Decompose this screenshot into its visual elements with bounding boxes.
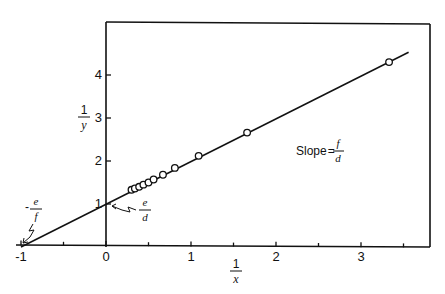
y-tick-labels: 1234 [95,67,102,211]
fit-line [21,52,409,247]
x-label-numerator: 1 [233,257,240,271]
data-point [150,176,157,183]
x-intercept-annotation: - e f [23,195,42,243]
xint-denominator: f [34,210,39,222]
x-tick-label: 1 [187,249,194,264]
slope-text: Slope= [296,144,335,158]
x-tick-labels: -10123 [15,249,364,264]
slope-denominator: d [335,152,341,164]
chart-svg: -10123 1234 1 x 1 y Slope= f d e d [0,0,445,294]
y-tick-label: 3 [95,110,102,125]
y-tick-label: 2 [95,153,102,168]
x-tick-label: 3 [357,249,364,264]
plot-frame [16,22,430,247]
frame-top [106,22,430,24]
yint-denominator: d [142,211,148,223]
data-point [172,165,179,172]
data-point [195,153,202,160]
xint-arrow-icon [23,224,34,243]
slope-annotation: Slope= f d [296,137,344,164]
x-label-denominator: x [232,272,239,286]
y-tick-label: 4 [95,67,102,82]
y-label-numerator: 1 [81,103,88,117]
slope-numerator: f [336,137,341,149]
chart: -10123 1234 1 x 1 y Slope= f d e d [0,0,445,294]
data-point [386,59,393,66]
x-tick-label: 2 [272,249,279,264]
y-axis-label: 1 y [78,103,90,132]
data-point [244,129,251,136]
data-point [160,171,167,178]
yint-numerator: e [143,196,148,208]
x-tick-label: 0 [102,249,109,264]
x-axis [16,245,430,247]
xint-numerator: e [34,195,39,207]
x-axis-label: 1 x [230,257,242,286]
y-label-denominator: y [80,118,87,132]
y-intercept-annotation: e d [112,196,151,223]
xint-minus: - [25,200,29,214]
x-tick-label: -1 [15,249,27,264]
